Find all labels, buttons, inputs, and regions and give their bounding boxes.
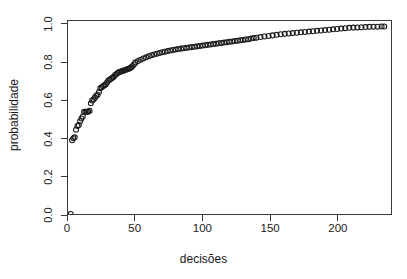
y-axis-title: probabilidade [4,0,24,235]
x-axis-title: decisões [0,252,407,266]
x-axis-tick-label: 200 [318,222,358,234]
chart-figure: probabilidade decisões 0.00.20.40.60.81.… [0,0,407,279]
x-axis-tick [67,215,68,221]
y-axis-tick [61,23,67,24]
x-axis-tick-label: 100 [182,222,222,234]
data-point [68,212,73,214]
plot-area [67,20,392,215]
y-axis-tick [61,62,67,63]
y-axis-title-label: probabilidade [7,63,21,167]
x-axis-tick [134,215,135,221]
y-axis-tick-label: 0.4 [38,129,58,149]
scatter-series [68,21,391,214]
y-axis-tick [61,100,67,101]
y-axis-tick [61,138,67,139]
x-axis-tick [202,215,203,221]
x-axis-tick-label: 150 [250,222,290,234]
y-axis-tick-label: 0.2 [38,167,58,187]
x-axis-tick [270,215,271,221]
data-points-layer [68,21,391,214]
y-axis-tick-label: 0.6 [38,90,58,110]
y-axis-tick-label: 0.8 [38,52,58,72]
x-axis-tick-label: 50 [115,222,155,234]
x-axis-tick [337,215,338,221]
y-axis-tick [61,176,67,177]
y-axis-tick-label: 1.0 [38,14,58,34]
x-axis-tick-label: 0 [47,222,87,234]
